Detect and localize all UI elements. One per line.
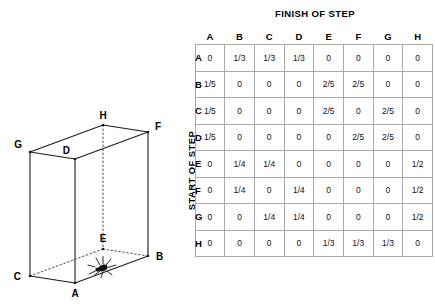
cell-value: 0 — [255, 239, 284, 248]
cell-B-C: 0 — [254, 71, 284, 98]
cell-D-D: 0 — [284, 124, 314, 151]
cell-value: 1/4 — [255, 160, 284, 169]
table-row: E 0 1/4 1/4 0 0 0 0 1/2 — [195, 151, 433, 178]
cell-value: 0 — [403, 107, 432, 116]
cell-value: 0 — [403, 80, 432, 89]
cell-H-B: 0 — [225, 230, 255, 257]
cell-value: 1/2 — [403, 160, 432, 169]
edge-D-F — [75, 132, 148, 159]
cell-value: 0 — [225, 133, 254, 142]
table-row: F 0 1/4 0 1/4 0 0 0 1/2 — [195, 177, 433, 204]
cell-D-F: 2/5 — [343, 124, 373, 151]
cell-H-E: 1/3 — [314, 230, 344, 257]
cell-value: 1/4 — [255, 213, 284, 222]
cell-E-C: 1/4 — [254, 151, 284, 178]
cell-C-H: 0 — [403, 98, 433, 125]
vertex-label-G: G — [14, 139, 22, 150]
cell-value: 0 — [344, 213, 373, 222]
cell-F-H: 1/2 — [403, 177, 433, 204]
cell-G-G: 0 — [373, 204, 403, 231]
cell-value: 2/5 — [374, 133, 403, 142]
cell-A-E: 0 — [314, 45, 344, 72]
cell-value: 2/5 — [314, 107, 343, 116]
column-header-F: F — [343, 28, 373, 45]
vertex-label-F: F — [155, 121, 161, 132]
cell-B-H: 0 — [403, 71, 433, 98]
cell-value: 0 — [285, 239, 314, 248]
cell-value: 0 — [344, 54, 373, 63]
cell-B-G: 0 — [373, 71, 403, 98]
edge-C-A — [30, 276, 75, 283]
cell-value: 0 — [255, 133, 284, 142]
vertex-label-E: E — [100, 233, 107, 244]
cell-value: 1/3 — [344, 239, 373, 248]
vertex-label-B: B — [156, 251, 163, 262]
cell-C-G: 2/5 — [373, 98, 403, 125]
cell-F-G: 0 — [373, 177, 403, 204]
cell-value: 0 — [285, 160, 314, 169]
cell-value: 0 — [255, 80, 284, 89]
cell-H-C: 0 — [254, 230, 284, 257]
cell-E-E: 0 — [314, 151, 344, 178]
cell-value: 0 — [285, 133, 314, 142]
cube-diagram-svg: A B C D E F G H — [0, 110, 170, 306]
cell-E-H: 1/2 — [403, 151, 433, 178]
column-header-A: A — [195, 28, 225, 45]
cell-F-D: 1/4 — [284, 177, 314, 204]
cell-C-C: 0 — [254, 98, 284, 125]
cell-value: 0 — [314, 213, 343, 222]
cell-G-H: 1/2 — [403, 204, 433, 231]
cell-value: 0 — [225, 239, 254, 248]
cell-C-D: 0 — [284, 98, 314, 125]
cell-value: 2/5 — [344, 133, 373, 142]
edge-E-B-hidden — [103, 249, 148, 256]
cell-E-G: 0 — [373, 151, 403, 178]
cell-value: 1/3 — [314, 239, 343, 248]
cell-F-F: 0 — [343, 177, 373, 204]
table-row: G 0 0 1/4 1/4 0 0 0 1/2 — [195, 204, 433, 231]
cell-B-E: 2/5 — [314, 71, 344, 98]
cell-value: 0 — [225, 107, 254, 116]
cell-H-H: 0 — [403, 230, 433, 257]
spider-icon — [88, 257, 116, 278]
edge-H-F — [103, 125, 148, 132]
cell-value: 0 — [374, 54, 403, 63]
cell-value: 0 — [225, 213, 254, 222]
cell-A-G: 0 — [373, 45, 403, 72]
cell-value: 1/4 — [285, 213, 314, 222]
cell-value: 0 — [314, 160, 343, 169]
cell-C-F: 0 — [343, 98, 373, 125]
cell-E-F: 0 — [343, 151, 373, 178]
column-header-B: B — [225, 28, 255, 45]
cell-value: 1/2 — [403, 213, 432, 222]
table-row: B 1/5 0 0 0 2/5 2/5 0 0 — [195, 71, 433, 98]
cell-value: 0 — [344, 186, 373, 195]
cell-value: 2/5 — [314, 80, 343, 89]
cell-value: 2/5 — [374, 107, 403, 116]
cell-value: 1/4 — [225, 186, 254, 195]
cell-value: 1/4 — [225, 160, 254, 169]
column-header-E: E — [314, 28, 344, 45]
cell-E-B: 1/4 — [225, 151, 255, 178]
cell-F-E: 0 — [314, 177, 344, 204]
cell-value: 0 — [285, 107, 314, 116]
cell-D-E: 0 — [314, 124, 344, 151]
cell-value: 2/5 — [344, 80, 373, 89]
cell-D-G: 2/5 — [373, 124, 403, 151]
figure-root: A B C D E F G H FINISH OF STEP START OF … — [0, 0, 435, 306]
column-header-D: D — [284, 28, 314, 45]
cell-D-C: 0 — [254, 124, 284, 151]
vertex-dots — [29, 124, 150, 285]
column-header-H: H — [403, 28, 433, 45]
cell-C-B: 0 — [225, 98, 255, 125]
cell-value: 0 — [403, 54, 432, 63]
cell-G-E: 0 — [314, 204, 344, 231]
cell-H-G: 1/3 — [373, 230, 403, 257]
edge-A-B — [75, 256, 148, 283]
cell-value: 0 — [374, 213, 403, 222]
cell-value: 0 — [344, 107, 373, 116]
cell-A-D: 1/3 — [284, 45, 314, 72]
cell-value: 0 — [374, 80, 403, 89]
cell-value: 0 — [255, 186, 284, 195]
cell-G-D: 1/4 — [284, 204, 314, 231]
